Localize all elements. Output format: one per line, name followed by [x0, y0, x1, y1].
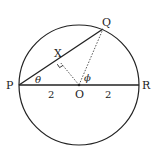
- circle-diagram: P R Q X O θ ϕ 2 2: [0, 0, 153, 153]
- label-R: R: [142, 79, 151, 92]
- right-angle-marker: [57, 64, 63, 67]
- center-dot: [78, 84, 81, 87]
- label-phi: ϕ: [84, 72, 91, 83]
- label-Q: Q: [102, 16, 111, 29]
- label-P: P: [6, 79, 14, 92]
- label-O: O: [75, 88, 84, 101]
- label-length-PO: 2: [48, 89, 54, 100]
- label-length-OR: 2: [105, 89, 111, 100]
- label-X: X: [54, 47, 62, 60]
- label-theta: θ: [35, 74, 41, 85]
